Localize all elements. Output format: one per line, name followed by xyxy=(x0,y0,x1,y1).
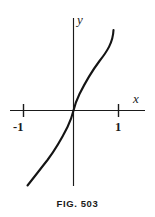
x-tick-label-negative-one: -1 xyxy=(13,120,23,134)
x-axis-label: x xyxy=(132,91,139,106)
figure-caption: FIG. 503 xyxy=(0,198,155,209)
x-tick-label-positive-one: 1 xyxy=(115,120,121,134)
plot-area: x y -1 1 xyxy=(0,0,155,195)
y-axis-label: y xyxy=(75,12,83,27)
cube-root-curve xyxy=(28,30,114,186)
figure-container: x y -1 1 FIG. 503 xyxy=(0,0,155,217)
